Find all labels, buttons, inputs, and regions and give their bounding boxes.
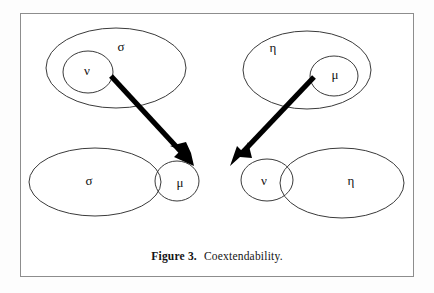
figure-caption: Figure 3.Coextendability. — [21, 250, 413, 262]
mu-to-nu-arrow — [230, 77, 314, 166]
nu-to-mu-arrow — [111, 76, 194, 166]
ellipse-eta-bottom-right — [280, 148, 404, 218]
ellipse-sigma-top-left — [46, 28, 186, 108]
nu-to-mu-arrow-shaft — [111, 76, 184, 155]
label-sigma-bottom-left: σ — [85, 173, 92, 188]
mu-to-nu-arrow-head — [230, 142, 252, 166]
label-mu-top-right: μ — [332, 67, 339, 82]
ellipse-eta-top-right — [243, 31, 371, 109]
group-bottom-left: σ μ — [29, 148, 199, 216]
label-nu-bottom-right: ν — [261, 173, 267, 188]
label-eta-top-right: η — [270, 40, 277, 55]
figure-page: σ ν η μ σ μ ν η — [0, 0, 434, 293]
label-sigma-top-left: σ — [117, 39, 124, 54]
figure-caption-text: Coextendability. — [204, 250, 283, 262]
ellipse-nu-bottom-right — [241, 159, 293, 201]
figure-caption-label: Figure 3. — [151, 250, 197, 262]
coextendability-diagram: σ ν η μ σ μ ν η — [21, 14, 413, 276]
label-nu-top-left: ν — [84, 63, 90, 78]
group-bottom-right: ν η — [241, 148, 404, 218]
ellipse-sigma-bottom-left — [29, 148, 161, 216]
group-top-left: σ ν — [46, 28, 186, 108]
nu-to-mu-arrow-head — [170, 142, 194, 166]
figure-frame: σ ν η μ σ μ ν η — [20, 13, 414, 277]
label-mu-bottom-left: μ — [177, 175, 184, 190]
group-top-right: η μ — [243, 31, 371, 109]
label-eta-bottom-right: η — [348, 173, 355, 188]
